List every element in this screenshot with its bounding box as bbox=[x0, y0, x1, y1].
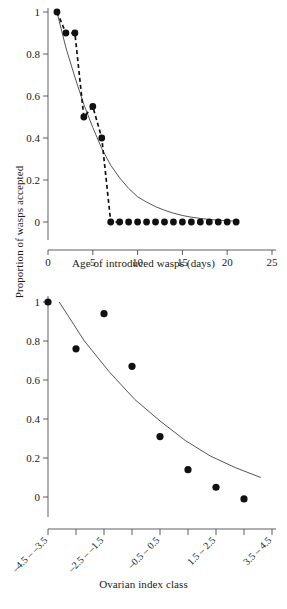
bottom-data-point bbox=[72, 345, 79, 352]
bottom-x-class-label: 3.5 – 4.5 bbox=[241, 535, 274, 568]
top-data-point bbox=[233, 219, 240, 226]
bottom-x-class-label: –0.5 – 0.5 bbox=[125, 535, 162, 572]
bottom-data-point bbox=[128, 363, 135, 370]
bottom-x-class-label: –4.5 – –3.5 bbox=[9, 535, 49, 575]
top-data-point bbox=[143, 219, 150, 226]
bottom-chart-plot-area: 00.20.40.60.81–4.5 – –3.5–2.5 – –1.5–0.5… bbox=[0, 282, 287, 578]
chart-panel-top: 00.20.40.60.810510152025 Age of introduc… bbox=[0, 0, 287, 282]
top-data-point bbox=[134, 219, 141, 226]
figure-container: Proportion of wasps accepted 00.20.40.60… bbox=[0, 0, 287, 609]
bottom-x-axis-title: Ovarian index class bbox=[0, 578, 287, 590]
top-data-point bbox=[179, 219, 186, 226]
top-y-tick-label: 0.6 bbox=[26, 90, 40, 102]
top-data-point bbox=[71, 30, 78, 37]
top-data-point bbox=[107, 219, 114, 226]
top-y-tick-label: 0 bbox=[35, 216, 41, 228]
top-y-tick-label: 1 bbox=[35, 6, 41, 18]
top-data-point bbox=[89, 103, 96, 110]
bottom-data-point bbox=[44, 298, 51, 305]
top-data-point bbox=[152, 219, 159, 226]
bottom-fitted-curve bbox=[59, 302, 261, 478]
bottom-x-class-label: 1.5 – 2.5 bbox=[185, 535, 218, 568]
top-data-point bbox=[54, 9, 61, 16]
top-data-point bbox=[161, 219, 168, 226]
top-y-tick-label: 0.8 bbox=[26, 48, 40, 60]
top-chart-plot-area: 00.20.40.60.810510152025 bbox=[0, 0, 287, 282]
top-data-point bbox=[63, 30, 70, 37]
top-y-tick-label: 0.2 bbox=[26, 174, 40, 186]
bottom-data-point bbox=[212, 484, 219, 491]
bottom-y-tick-label: 0.4 bbox=[26, 413, 40, 425]
top-data-point bbox=[215, 219, 222, 226]
bottom-data-point bbox=[240, 495, 247, 502]
top-data-point bbox=[197, 219, 204, 226]
bottom-y-tick-label: 1 bbox=[35, 296, 41, 308]
top-data-point bbox=[170, 219, 177, 226]
bottom-y-tick-label: 0.8 bbox=[26, 335, 40, 347]
bottom-data-point bbox=[100, 310, 107, 317]
top-y-tick-label: 0.4 bbox=[26, 132, 40, 144]
bottom-data-point bbox=[184, 466, 191, 473]
top-x-axis-title: Age of introduced wasps (days) bbox=[0, 257, 287, 269]
bottom-x-class-label: –2.5 – –1.5 bbox=[65, 535, 105, 575]
top-data-point bbox=[224, 219, 231, 226]
chart-panel-bottom: 00.20.40.60.81–4.5 – –3.5–2.5 – –1.5–0.5… bbox=[0, 282, 287, 609]
top-data-point bbox=[206, 219, 213, 226]
bottom-y-tick-label: 0.2 bbox=[26, 452, 40, 464]
top-data-point bbox=[80, 114, 87, 121]
top-data-point bbox=[188, 219, 195, 226]
top-data-point bbox=[98, 135, 105, 142]
bottom-y-tick-label: 0.6 bbox=[26, 374, 40, 386]
bottom-data-point bbox=[156, 433, 163, 440]
bottom-y-tick-label: 0 bbox=[35, 491, 41, 503]
top-data-point bbox=[116, 219, 123, 226]
top-data-point bbox=[125, 219, 132, 226]
